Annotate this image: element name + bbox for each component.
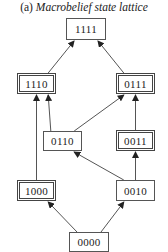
- lattice-node-0111: 0111: [116, 73, 155, 94]
- lattice-node-0110: 0110: [43, 131, 82, 151]
- node-label: 0011: [124, 135, 147, 147]
- lattice-node-1000: 1000: [17, 180, 56, 201]
- node-label: 0110: [51, 135, 74, 147]
- edge-0000-to-1000: [48, 202, 77, 232]
- lattice-node-1110: 1110: [17, 73, 56, 94]
- edge-0000-to-0010: [101, 202, 124, 232]
- node-label: 1000: [25, 185, 48, 197]
- lattice-node-0000: 0000: [69, 232, 109, 252]
- edge-1110-to-1111: [48, 41, 74, 73]
- edge-0010-to-0110: [74, 152, 124, 180]
- node-label: 1110: [25, 78, 47, 90]
- node-label: 0000: [77, 236, 100, 248]
- node-label: 0010: [124, 185, 147, 197]
- edge-0110-to-1110: [48, 95, 51, 131]
- lattice-node-0010: 0010: [116, 180, 155, 201]
- edge-0111-to-1111: [98, 41, 124, 73]
- edge-0110-to-0111: [74, 95, 124, 131]
- node-label: 0111: [124, 78, 146, 90]
- lattice-node-1111: 1111: [66, 18, 106, 40]
- lattice-node-0011: 0011: [116, 130, 155, 151]
- node-label: 1111: [75, 23, 97, 35]
